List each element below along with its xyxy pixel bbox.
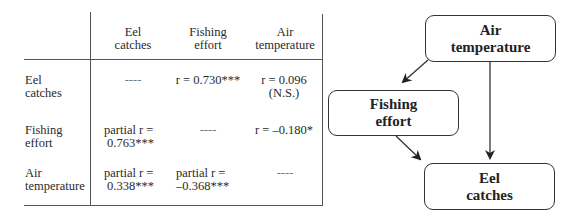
node-fishing-effort: Fishing effort xyxy=(328,90,459,136)
arrow-fishing-to-eel xyxy=(396,136,420,159)
arrow-air-to-fishing xyxy=(403,60,428,82)
node-eel-catches: Eel catches xyxy=(424,163,555,210)
node-air-temperature: Air temperature xyxy=(425,15,556,62)
